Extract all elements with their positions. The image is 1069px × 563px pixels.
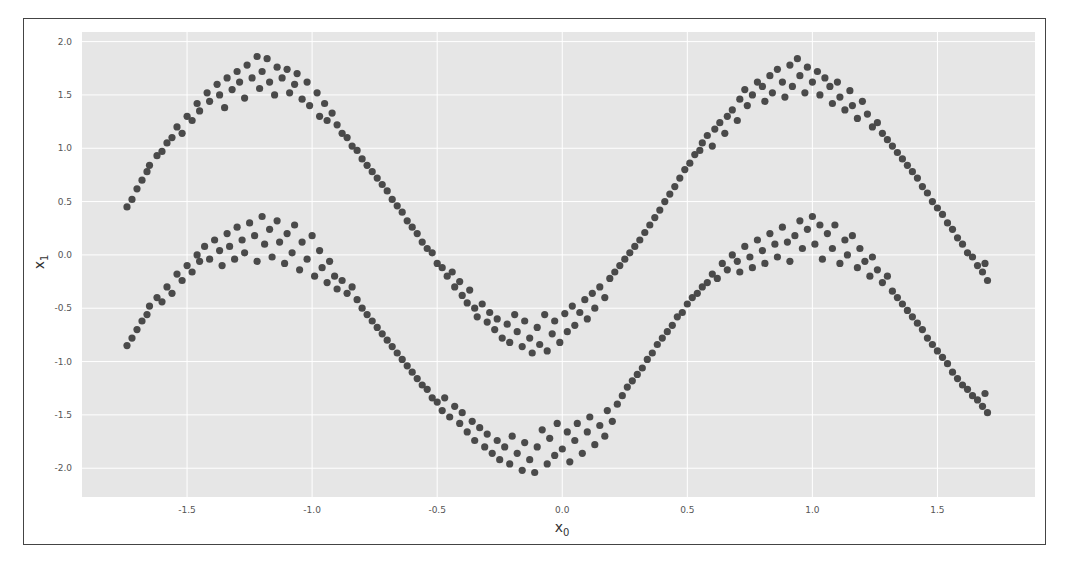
data-point xyxy=(724,113,731,120)
data-point xyxy=(859,98,866,105)
data-point xyxy=(779,79,786,86)
data-point xyxy=(804,64,811,71)
data-point xyxy=(424,386,431,393)
data-point xyxy=(889,143,896,150)
data-point xyxy=(794,55,801,62)
data-point xyxy=(849,102,856,109)
data-point xyxy=(158,148,165,155)
data-point xyxy=(456,420,463,427)
data-point xyxy=(509,433,516,440)
data-point xyxy=(959,241,966,248)
data-point xyxy=(294,70,301,77)
data-point xyxy=(664,328,671,335)
x-tick-label: 1.5 xyxy=(930,505,944,515)
data-point xyxy=(566,458,573,465)
data-point xyxy=(826,83,833,90)
y-tick-label: -1.0 xyxy=(54,357,72,367)
data-point xyxy=(434,399,441,406)
data-point xyxy=(934,204,941,211)
data-point xyxy=(814,68,821,75)
data-point xyxy=(781,94,788,101)
data-point xyxy=(479,300,486,307)
data-point xyxy=(266,226,273,233)
data-point xyxy=(609,418,616,425)
data-point xyxy=(759,83,766,90)
data-point xyxy=(319,264,326,271)
x-tick-label: -1.5 xyxy=(178,505,196,515)
data-point xyxy=(489,450,496,457)
data-point xyxy=(614,401,621,408)
data-point xyxy=(846,87,853,94)
data-point xyxy=(264,55,271,62)
data-point xyxy=(676,175,683,182)
data-point xyxy=(316,247,323,254)
data-point xyxy=(526,456,533,463)
data-point xyxy=(394,202,401,209)
data-point xyxy=(551,317,558,324)
data-point xyxy=(254,258,261,265)
data-point xyxy=(816,221,823,228)
data-point xyxy=(309,232,316,239)
x-tick-label: 1.0 xyxy=(805,505,820,515)
data-point xyxy=(821,74,828,81)
data-point xyxy=(334,121,341,128)
data-point xyxy=(194,100,201,107)
data-point xyxy=(924,335,931,342)
data-point xyxy=(514,450,521,457)
data-point xyxy=(306,102,313,109)
data-point xyxy=(669,322,676,329)
data-point xyxy=(939,354,946,361)
data-point xyxy=(749,264,756,271)
data-point xyxy=(531,469,538,476)
data-point xyxy=(589,290,596,297)
data-point xyxy=(909,168,916,175)
data-point xyxy=(354,296,361,303)
data-point xyxy=(699,139,706,146)
data-point xyxy=(724,266,731,273)
data-point xyxy=(354,147,361,154)
data-point xyxy=(861,258,868,265)
data-point xyxy=(684,300,691,307)
data-point xyxy=(261,241,268,248)
data-point xyxy=(506,460,513,467)
data-point xyxy=(484,319,491,326)
data-point xyxy=(624,384,631,391)
data-point xyxy=(884,273,891,280)
data-point xyxy=(241,95,248,102)
data-point xyxy=(646,221,653,228)
data-point xyxy=(659,335,666,342)
data-point xyxy=(539,426,546,433)
data-point xyxy=(734,258,741,265)
data-point xyxy=(596,422,603,429)
data-point xyxy=(974,262,981,269)
data-point xyxy=(949,369,956,376)
data-point xyxy=(284,230,291,237)
data-point xyxy=(439,264,446,271)
data-point xyxy=(123,342,130,349)
data-point xyxy=(729,106,736,113)
data-point xyxy=(133,326,140,333)
data-point xyxy=(796,217,803,224)
data-point xyxy=(196,107,203,114)
data-point xyxy=(729,251,736,258)
data-point xyxy=(544,460,551,467)
data-point xyxy=(541,311,548,318)
data-point xyxy=(984,409,991,416)
data-point xyxy=(321,100,328,107)
data-point xyxy=(219,262,226,269)
data-point xyxy=(506,339,513,346)
data-point xyxy=(536,341,543,348)
data-point xyxy=(143,168,150,175)
data-point xyxy=(339,277,346,284)
data-point xyxy=(216,91,223,98)
data-point xyxy=(981,390,988,397)
data-point xyxy=(379,181,386,188)
data-point xyxy=(736,268,743,275)
data-point xyxy=(251,232,258,239)
data-point xyxy=(746,253,753,260)
data-point xyxy=(809,79,816,86)
data-point xyxy=(494,315,501,322)
data-point xyxy=(969,253,976,260)
data-point xyxy=(344,290,351,297)
data-point xyxy=(556,339,563,346)
